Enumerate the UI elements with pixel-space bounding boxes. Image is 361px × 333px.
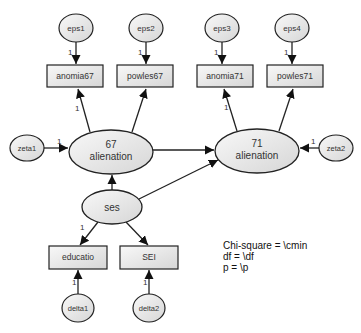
node-eps1[interactable]: eps1	[59, 14, 93, 42]
eps2-label: eps2	[137, 24, 155, 33]
sem-diagram: 1 1 1 1 1 1 1 1 1 1 1 eps1 eps2 eps3 eps…	[0, 0, 361, 333]
educatio-label: educatio	[62, 252, 94, 262]
node-anomia71[interactable]: anomia71	[197, 65, 253, 87]
zeta1-label: zeta1	[18, 144, 36, 153]
label-zeta2-alien71: 1	[311, 137, 316, 146]
node-alienation71[interactable]: 71 alienation	[215, 129, 299, 173]
alienation67-line1: 67	[105, 139, 117, 150]
powles67-label: powles67	[127, 71, 163, 81]
eps3-label: eps3	[213, 24, 231, 33]
fit-statistics: Chi-square = \cmin df = \df p = \p	[223, 240, 307, 273]
label-delta1-educatio: 1	[72, 278, 77, 287]
label-zeta1-alien67: 1	[57, 137, 62, 146]
path-alien71-powles71	[279, 89, 293, 131]
delta2-label: delta2	[139, 304, 159, 313]
chi-square-text: Chi-square = \cmin	[223, 240, 307, 251]
label-eps2-powles67: 1	[138, 48, 143, 57]
alienation71-line2: alienation	[236, 150, 279, 161]
sei-label: SEI	[142, 252, 156, 262]
node-delta1[interactable]: delta1	[62, 294, 94, 322]
node-alienation67[interactable]: 67 alienation	[69, 130, 153, 174]
alienation71-line1: 71	[251, 138, 263, 149]
zeta2-label: zeta2	[327, 144, 345, 153]
node-eps2[interactable]: eps2	[129, 14, 163, 42]
df-text: df = \df	[223, 251, 307, 262]
label-eps3-anomia71: 1	[214, 48, 219, 57]
path-alien67-anomia67	[78, 89, 90, 132]
anomia71-label: anomia71	[206, 71, 244, 81]
eps1-label: eps1	[67, 24, 85, 33]
label-ses-educatio: 1	[80, 223, 85, 232]
path-alien67-powles67	[132, 89, 146, 132]
delta1-label: delta1	[68, 304, 88, 313]
anomia67-label: anomia67	[56, 71, 94, 81]
label-delta2-sei: 1	[143, 278, 148, 287]
node-powles67[interactable]: powles67	[117, 65, 173, 87]
label-eps4-powles71: 1	[284, 48, 289, 57]
node-zeta1[interactable]: zeta1	[10, 135, 44, 161]
node-delta2[interactable]: delta2	[133, 294, 165, 322]
node-anomia67[interactable]: anomia67	[47, 65, 103, 87]
alienation67-line2: alienation	[90, 151, 133, 162]
path-ses-sei	[126, 222, 148, 245]
node-educatio[interactable]: educatio	[49, 246, 107, 269]
node-ses[interactable]: ses	[82, 190, 142, 224]
label-eps1-anomia67: 1	[68, 48, 73, 57]
node-eps4[interactable]: eps4	[275, 14, 309, 42]
node-sei[interactable]: SEI	[120, 246, 178, 269]
label-alien71-anomia71: 1	[224, 103, 229, 112]
eps4-label: eps4	[283, 24, 301, 33]
powles71-label: powles71	[277, 71, 313, 81]
path-ses-alien71	[139, 160, 218, 199]
label-alien67-anomia67: 1	[75, 104, 80, 113]
node-powles71[interactable]: powles71	[267, 65, 323, 87]
node-eps3[interactable]: eps3	[205, 14, 239, 42]
node-zeta2[interactable]: zeta2	[319, 135, 353, 161]
ses-label: ses	[104, 202, 120, 213]
p-text: p = \p	[223, 262, 307, 273]
